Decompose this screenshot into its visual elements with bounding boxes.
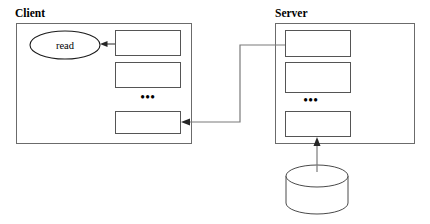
client-server-diagram: Client read ••• Server [0, 0, 430, 224]
client-ellipsis: ••• [140, 90, 155, 104]
client-box-to-read-connector [100, 41, 115, 47]
database-cylinder[interactable] [286, 165, 348, 214]
client-box-1[interactable] [116, 31, 181, 56]
read-node-label: read [56, 40, 75, 51]
server-box-1[interactable] [286, 31, 351, 57]
server-panel: Server ••• [275, 7, 415, 144]
server-box-2[interactable] [286, 63, 351, 93]
client-box-3[interactable] [116, 112, 181, 134]
server-to-client-connector [181, 45, 285, 126]
client-panel-title: Client [15, 7, 45, 19]
server-ellipsis: ••• [303, 93, 318, 107]
client-box-2[interactable] [116, 63, 181, 88]
client-panel: Client read ••• [15, 7, 192, 144]
server-panel-title: Server [275, 7, 308, 19]
diagram-canvas: Client read ••• Server [0, 0, 430, 224]
server-box-3[interactable] [286, 112, 351, 137]
